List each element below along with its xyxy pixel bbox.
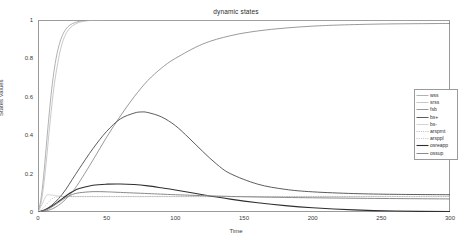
series-line-srss (38, 20, 450, 212)
legend-item-arspmt[interactable]: arspmt (416, 128, 456, 135)
legend-swatch-bs+ (416, 114, 429, 121)
legend-label-arsppl: arsppl (429, 135, 444, 142)
x-tick-label-1: 50 (103, 215, 110, 221)
legend-item-ossup[interactable]: ossup (416, 150, 456, 157)
y-tick-label-4: 0.8 (0, 55, 33, 61)
legend-swatch-ossup (416, 150, 429, 157)
x-tick-label-0: 0 (36, 215, 39, 221)
legend-item-bs-[interactable]: bs- (416, 121, 456, 128)
legend-label-wss: wss (429, 92, 439, 99)
legend-swatch-fsb (416, 106, 429, 113)
legend-label-bs-: bs- (429, 121, 437, 128)
legend-swatch-bs- (416, 121, 429, 128)
y-tick-label-5: 1 (0, 17, 33, 23)
series-line-bs- (38, 195, 450, 212)
x-tick-label-4: 200 (308, 215, 318, 221)
figure-canvas: dynamic states 00.20.40.60.81 0501001502… (0, 0, 472, 248)
chart-screenshot: dynamic states 00.20.40.60.81 0501001502… (0, 0, 472, 248)
legend-swatch-arsppl (416, 135, 429, 142)
legend-label-bs+: bs+ (429, 114, 438, 121)
legend-label-arspmt: arspmt (429, 128, 445, 135)
x-tick-label-6: 300 (445, 215, 455, 221)
legend-label-fsb: fsb (429, 106, 437, 113)
y-tick-label-1: 0.2 (0, 170, 33, 176)
legend-label-osreapp: osreapp (429, 142, 448, 149)
y-tick-label-0: 0 (0, 209, 33, 215)
plot-lines (38, 20, 450, 212)
x-tick-label-2: 100 (170, 215, 180, 221)
chart-legend: wsssrssfsbbs+bs-arspmtarspplosreappossup (414, 89, 458, 160)
series-line-fsb (38, 23, 450, 212)
legend-swatch-arspmt (416, 128, 429, 135)
legend-item-bs+[interactable]: bs+ (416, 114, 456, 121)
y-tick-label-3: 0.6 (0, 93, 33, 99)
legend-item-arsppl[interactable]: arsppl (416, 135, 456, 142)
x-tick-label-3: 150 (239, 215, 249, 221)
series-line-osreapp (38, 184, 450, 212)
series-line-wss (38, 20, 450, 212)
legend-item-wss[interactable]: wss (416, 92, 456, 99)
legend-swatch-srss (416, 99, 429, 106)
legend-label-ossup: ossup (429, 150, 443, 157)
x-axis-label: Time (0, 228, 472, 234)
y-axis-label: States Values (0, 79, 4, 116)
legend-swatch-wss (416, 92, 429, 99)
chart-title: dynamic states (0, 8, 472, 15)
y-tick-label-2: 0.4 (0, 132, 33, 138)
legend-item-srss[interactable]: srss (416, 99, 456, 106)
legend-swatch-osreapp (416, 142, 429, 149)
legend-item-osreapp[interactable]: osreapp (416, 142, 456, 149)
x-tick-label-5: 250 (376, 215, 386, 221)
legend-label-srss: srss (429, 99, 439, 106)
legend-item-fsb[interactable]: fsb (416, 106, 456, 113)
